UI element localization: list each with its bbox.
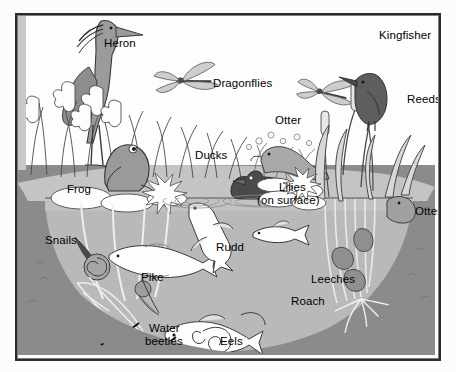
label-frog: Frog [67,183,91,196]
label-otter-right: Otter [415,205,441,218]
label-roach: Roach [291,295,325,308]
label-pike: Pike [141,271,164,284]
label-lilies: Lilies [279,181,306,194]
label-snails: Snails [45,234,77,247]
pond-illustration-stage: Heron Dragonflies Kingfisher Reeds Otter… [0,0,456,372]
left-post [17,15,26,170]
label-water: Water [149,322,180,335]
label-rudd: Rudd [216,241,244,254]
label-eels: Eels [220,335,243,348]
illustration-frame: Heron Dragonflies Kingfisher Reeds Otter… [15,13,441,361]
label-kingfisher: Kingfisher [379,29,431,42]
label-leeches: Leeches [311,273,355,286]
label-dragonflies: Dragonflies [213,77,272,90]
label-beetles: beetles [145,335,183,348]
label-otter-bank: Otter [275,114,301,127]
label-ducks: Ducks [195,149,227,162]
label-reeds: Reeds [407,93,441,106]
label-heron: Heron [104,37,136,50]
label-lilies-sub: (on surface) [257,194,320,207]
